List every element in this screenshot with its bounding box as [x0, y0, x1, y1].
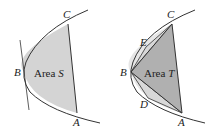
label-b-left: B [14, 66, 21, 78]
right-figure: C E B D A Area T [120, 8, 205, 128]
label-c-right: C [167, 8, 175, 20]
area-t-label: Area T [144, 67, 175, 79]
label-b-right: B [120, 66, 127, 78]
label-a-right: A [177, 116, 185, 128]
label-c-left: C [63, 8, 71, 20]
label-d: D [139, 98, 148, 110]
label-e: E [139, 36, 147, 48]
left-figure: C B A Area S [14, 8, 100, 128]
parabolic-segment-diagram: C B A Area S C E B D A Area T [0, 0, 210, 132]
label-a-left: A [72, 116, 80, 128]
area-s-label: Area S [34, 67, 64, 79]
